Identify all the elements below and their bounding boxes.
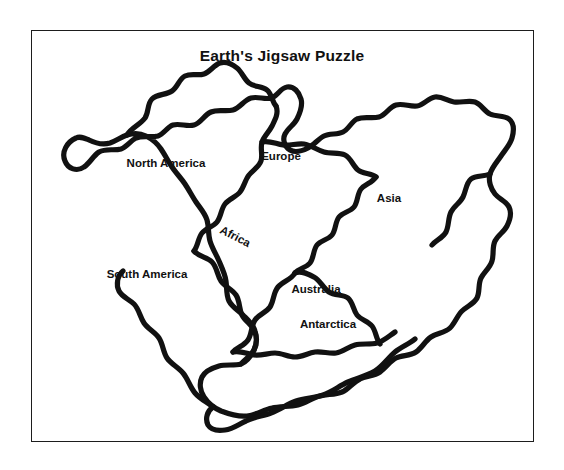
figure-root: Earth's Jigsaw Puzzle North America Euro… [0,0,564,470]
map-label-antarctica: Antarctica [300,319,356,331]
supercontinent-outline-path [64,87,514,416]
map-label-australia: Australia [291,284,340,296]
pangaea-map-illustration [31,30,534,442]
map-label-north-america: North America [127,158,206,170]
map-label-asia: Asia [377,193,401,205]
map-label-south-america: South America [107,269,188,281]
map-label-europe: Europe [261,151,301,163]
